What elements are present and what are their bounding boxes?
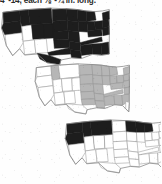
state-virginia bbox=[159, 137, 161, 146]
range-map-2 bbox=[32, 62, 130, 115]
state-kansas bbox=[114, 149, 129, 158]
state-utah bbox=[61, 78, 72, 91]
state-nebraska bbox=[53, 31, 69, 40]
state-alabama bbox=[114, 95, 123, 105]
range-map-1 bbox=[0, 6, 110, 66]
state-oklahoma bbox=[81, 99, 95, 105]
state-south-dakota bbox=[53, 20, 68, 31]
state-michigan bbox=[86, 11, 96, 22]
state-illinois bbox=[136, 132, 145, 142]
state-utah bbox=[32, 24, 45, 39]
state-minnesota bbox=[126, 121, 137, 133]
state-indiana bbox=[145, 132, 153, 141]
state-mississippi bbox=[139, 154, 150, 165]
state-arkansas bbox=[69, 41, 81, 50]
state-montana bbox=[90, 120, 112, 136]
state-montana bbox=[58, 64, 79, 79]
state-carolinas bbox=[160, 144, 162, 152]
state-kentucky bbox=[88, 29, 103, 37]
state-georgia bbox=[158, 152, 161, 164]
state-north-dakota bbox=[112, 121, 126, 133]
map-2-states bbox=[35, 64, 130, 114]
state-michigan bbox=[109, 66, 118, 75]
state-nebraska bbox=[80, 84, 94, 92]
state-montana bbox=[28, 8, 52, 25]
state-new-mexico bbox=[64, 91, 76, 104]
state-iowa bbox=[126, 132, 137, 142]
state-kansas bbox=[81, 91, 95, 99]
state-south-dakota bbox=[80, 74, 93, 84]
state-michigan bbox=[144, 123, 153, 133]
state-oklahoma bbox=[48, 48, 71, 56]
state-utah bbox=[93, 135, 105, 149]
state-california bbox=[38, 86, 54, 106]
state-alabama bbox=[92, 43, 102, 54]
state-wisconsin bbox=[77, 10, 87, 22]
state-nevada bbox=[53, 79, 63, 93]
state-ohio bbox=[95, 21, 103, 30]
state-indiana bbox=[110, 76, 117, 84]
range-map-3-svg bbox=[62, 118, 161, 174]
state-illinois bbox=[102, 76, 110, 85]
state-minnesota bbox=[67, 9, 79, 22]
state-new-york bbox=[159, 123, 161, 132]
state-louisiana bbox=[95, 101, 105, 108]
state-iowa bbox=[93, 75, 103, 84]
state-california bbox=[69, 143, 86, 164]
state-ohio bbox=[152, 132, 160, 141]
state-mississippi bbox=[104, 96, 114, 106]
state-arkansas bbox=[128, 151, 139, 160]
range-map-2-svg bbox=[32, 62, 130, 115]
state-virginia bbox=[102, 26, 110, 35]
state-wisconsin bbox=[101, 65, 110, 76]
state-missouri bbox=[93, 84, 103, 95]
state-louisiana bbox=[70, 50, 81, 58]
state-north-dakota bbox=[52, 9, 67, 21]
state-missouri bbox=[68, 31, 80, 43]
state-minnesota bbox=[92, 64, 102, 75]
state-illinois bbox=[78, 22, 87, 33]
state-indiana bbox=[87, 22, 95, 31]
state-arizona bbox=[23, 40, 36, 55]
state-kentucky bbox=[145, 140, 159, 147]
state-california bbox=[5, 33, 23, 56]
state-arizona bbox=[54, 92, 65, 105]
state-kentucky bbox=[110, 83, 123, 90]
state-new-mexico bbox=[34, 39, 47, 53]
state-missouri bbox=[127, 141, 138, 152]
state-wisconsin bbox=[135, 121, 144, 132]
state-oklahoma bbox=[114, 157, 129, 164]
state-iowa bbox=[67, 21, 79, 32]
state-arkansas bbox=[94, 93, 104, 101]
state-georgia bbox=[101, 42, 109, 55]
state-kansas bbox=[54, 39, 70, 48]
state-nevada bbox=[22, 25, 33, 41]
state-nebraska bbox=[113, 141, 128, 150]
state-new-mexico bbox=[96, 149, 108, 163]
state-oregon bbox=[35, 75, 53, 87]
state-mississippi bbox=[81, 44, 93, 55]
state-alabama bbox=[149, 153, 158, 164]
map-1-states bbox=[2, 8, 111, 64]
state-north-dakota bbox=[79, 64, 92, 75]
range-map-1-svg bbox=[0, 6, 110, 66]
state-oregon bbox=[2, 21, 22, 35]
state-ohio bbox=[117, 75, 124, 83]
range-map-3 bbox=[62, 118, 161, 174]
state-oregon bbox=[65, 132, 84, 145]
scanned-page: 4"-14, each ⅛"-¼ in. long. bbox=[0, 0, 161, 184]
state-south-dakota bbox=[113, 131, 127, 142]
map-3-states bbox=[65, 120, 161, 173]
state-new-york bbox=[123, 66, 130, 75]
state-carolinas bbox=[124, 87, 130, 94]
state-louisiana bbox=[129, 159, 139, 167]
state-arizona bbox=[85, 150, 97, 164]
state-nevada bbox=[84, 136, 94, 151]
